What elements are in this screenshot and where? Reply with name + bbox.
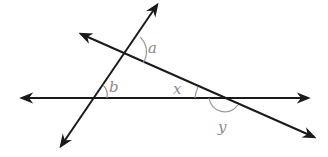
angle-diagram: a b x y	[0, 0, 328, 157]
angle-y-arc	[209, 98, 238, 112]
steep-transversal-line	[61, 5, 157, 146]
angle-label-x: x	[173, 80, 182, 98]
angle-x-arc	[195, 87, 198, 98]
angle-label-a: a	[148, 39, 157, 57]
angle-a-arc	[140, 37, 146, 63]
angle-label-y: y	[217, 118, 227, 136]
angle-b-arc	[103, 85, 107, 98]
angle-label-b: b	[109, 78, 119, 96]
